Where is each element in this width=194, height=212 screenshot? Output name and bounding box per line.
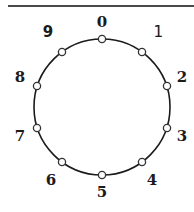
node-label: 8 [15, 70, 25, 85]
node-label: 5 [97, 185, 107, 200]
node-label: 3 [177, 129, 187, 144]
graph-node[interactable] [33, 124, 40, 131]
node-markers-group [33, 35, 170, 178]
graph-node[interactable] [58, 48, 65, 55]
graph-node[interactable] [98, 171, 105, 178]
graph-node[interactable] [163, 82, 170, 89]
ring-path [34, 39, 170, 175]
node-label: 0 [97, 15, 107, 30]
node-label: 4 [147, 173, 157, 188]
node-label: 1 [153, 24, 163, 40]
circle-graph [0, 0, 194, 212]
graph-node[interactable] [138, 158, 145, 165]
diagram-canvas: 0123456789 [0, 0, 194, 212]
node-label: 7 [15, 129, 25, 144]
node-label: 6 [46, 173, 56, 188]
graph-node[interactable] [163, 124, 170, 131]
graph-node[interactable] [58, 158, 65, 165]
graph-node[interactable] [98, 35, 105, 42]
graph-node[interactable] [138, 48, 145, 55]
graph-node[interactable] [33, 82, 40, 89]
node-label: 9 [43, 25, 53, 40]
node-label: 2 [177, 70, 187, 85]
